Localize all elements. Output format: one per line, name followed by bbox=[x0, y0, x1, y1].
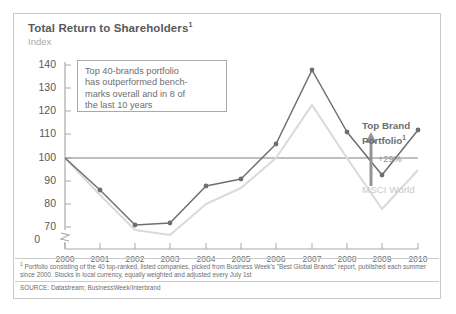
y-tick-label: 110 bbox=[30, 127, 56, 139]
footnote-text: 1 Portfolio consisting of the 40 top-ran… bbox=[20, 261, 426, 280]
delta-percent-label: +29% bbox=[378, 154, 402, 164]
footnote-divider bbox=[15, 258, 439, 259]
y-tick-label: 120 bbox=[30, 104, 56, 116]
source-text: SOURCE: Datastream; BusinessWeek/Interbr… bbox=[20, 284, 161, 291]
y-tick-label: 100 bbox=[30, 151, 56, 163]
callout-line-3: marks overall and in 8 of bbox=[85, 89, 219, 100]
chart-card: Total Return to Shareholders1 Index bbox=[13, 13, 441, 299]
series-label-top-brand-portfolio: Top Brand Portfolio1 bbox=[362, 120, 410, 146]
callout-line-2: has outperformed bench- bbox=[85, 77, 219, 88]
y-tick-label: 140 bbox=[30, 58, 56, 70]
y-tick-label: 80 bbox=[30, 197, 56, 209]
y-axis-break-zero-label: 0 bbox=[26, 233, 40, 245]
y-tick-label: 130 bbox=[30, 81, 56, 93]
axis-break-icon bbox=[61, 233, 69, 241]
callout-line-4: the last 10 years bbox=[85, 100, 219, 111]
callout-box: Top 40-brands portfolio has outperformed… bbox=[77, 60, 227, 112]
series-label-msci-world: MSCI World bbox=[362, 184, 415, 196]
callout-line-1: Top 40-brands portfolio bbox=[85, 66, 219, 77]
source-divider bbox=[15, 281, 439, 282]
y-tick-label: 70 bbox=[30, 220, 56, 232]
y-tick-label: 90 bbox=[30, 174, 56, 186]
